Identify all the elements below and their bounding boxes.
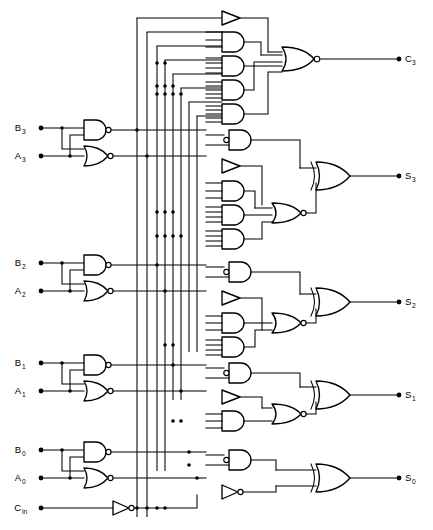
label-b3: B [15,122,21,133]
label-s1: S [405,389,411,400]
carry-out-block [206,11,399,124]
label-c3-sub: 3 [412,59,416,66]
nor-gate-bit2 [84,281,108,301]
xor-gate-s3 [316,162,350,190]
and-gate-s2-1 [222,313,244,333]
nor-bubble-bit0 [108,475,113,480]
buffer-s2 [222,291,240,305]
label-b0-sub: 0 [22,450,26,457]
buffer-c3 [222,11,240,25]
carry-in-inverter-group [39,495,197,515]
output-terminal-s1[interactable] [397,393,402,398]
label-b1-sub: 1 [22,363,26,370]
nand-gate-bit1 [84,355,106,375]
label-s0-sub: 0 [412,478,416,485]
and-input-bubble-s1 [224,370,229,375]
label-a1: A [15,385,22,396]
inverter-bubble-cin [129,505,134,510]
top-feed-lines [137,18,222,116]
and-gate-s1-1 [222,411,244,431]
label-b2-sub: 2 [22,263,26,270]
input-stage-bit3 [39,120,149,166]
and-gate-s2-2 [222,337,244,357]
nor-bubble-c3 [314,56,320,62]
label-s2: S [405,296,411,307]
label-s2-sub: 2 [412,302,416,309]
and-gate-c3-4 [222,104,244,124]
nor-bubble-s3 [301,210,306,215]
nand-gate-bit3 [84,120,106,140]
label-s3-sub: 3 [412,176,416,183]
and-gate-s0-prop [229,450,251,470]
label-a3: A [15,150,22,161]
logic-diagram: B 3 A 3 B 2 A 2 B 1 A 1 B 0 A 0 C in C 3… [0,0,433,530]
nor-gate-s2 [272,313,301,333]
output-terminal-s0[interactable] [397,476,402,481]
sum0-block [206,450,399,499]
nor-gate-s3 [272,203,301,223]
label-b2: B [15,257,21,268]
nor-gate-bit1 [84,381,108,401]
and-input-bubble-s2 [224,269,229,274]
label-b3-sub: 3 [22,128,26,135]
sum2-block [206,262,399,357]
nor-bubble-s2 [301,320,306,325]
label-b0: B [15,444,21,455]
label-s1-sub: 1 [412,395,416,402]
and-gate-c3-1 [222,32,244,52]
output-terminal-c3[interactable] [397,57,402,62]
label-s0: S [405,472,411,483]
inverter-cin [113,501,129,515]
nor-bubble-bit2 [108,288,113,293]
label-a2-sub: 2 [22,291,26,298]
label-a0-sub: 0 [22,478,26,485]
inverter-s0 [222,485,238,499]
nand-bubble-bit3 [106,127,111,132]
nor-gate-c3 [282,47,314,71]
nor-bubble-bit3 [108,153,113,158]
and-gate-s2-prop [229,262,251,282]
and-gate-s3-1 [222,181,244,201]
nand-bubble-bit2 [106,262,111,267]
buffer-s3 [222,159,240,173]
sum1-block [206,363,399,431]
label-cin: C [14,502,21,513]
xor-gate-s0 [316,464,350,492]
xor-gate-s2 [316,288,350,316]
and-input-bubble-s0 [224,457,229,462]
label-a3-sub: 3 [22,156,26,163]
output-terminal-s3[interactable] [397,174,402,179]
label-c3: C [405,53,412,64]
label-a0: A [15,472,22,483]
xor-gate-s1 [316,381,350,409]
label-a2: A [15,285,22,296]
nor-gate-bit3 [84,146,108,166]
and-gate-c3-3 [222,80,244,100]
nand-gate-bit2 [84,255,106,275]
nor-gate-bit0 [84,468,108,488]
nand-bubble-bit0 [106,449,111,454]
inverter-bubble-s0 [238,489,243,494]
and-gate-c3-2 [222,56,244,76]
output-terminal-s2[interactable] [397,300,402,305]
and-input-bubble-s3 [224,137,229,142]
sum3-block [206,130,399,249]
bus-routing [137,18,197,517]
nand-gate-bit0 [84,442,106,462]
and-gate-s1-prop [229,363,251,383]
and-gate-s3-3 [222,229,244,249]
nor-bubble-bit1 [108,388,113,393]
input-stage-bit0 [39,442,199,488]
nor-bubble-s1 [301,411,306,416]
label-cin-sub: in [22,508,27,515]
nand-bubble-bit1 [106,362,111,367]
label-s3: S [405,170,411,181]
schematic-sheet: B 3 A 3 B 2 A 2 B 1 A 1 B 0 A 0 C in C 3… [0,0,433,530]
input-stage-bit2 [39,255,167,301]
label-a1-sub: 1 [22,391,26,398]
label-b1: B [15,357,21,368]
nor-gate-s1 [272,404,301,424]
buffer-s1 [222,390,240,404]
and-gate-s3-2 [222,205,244,225]
input-stage-bit1 [39,355,183,401]
